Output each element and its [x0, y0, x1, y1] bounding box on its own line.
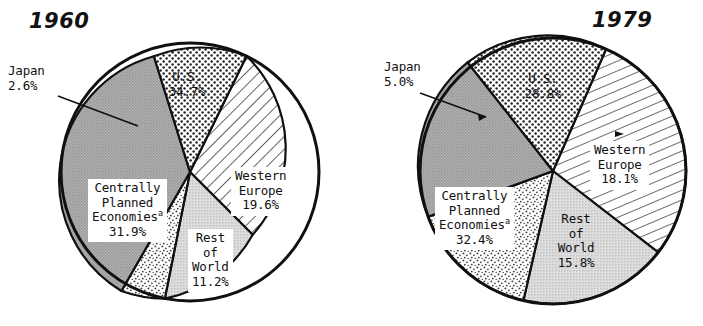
centrally-planned-value-1979: 32.4%	[439, 233, 510, 248]
japan-label-1979: Japan	[384, 60, 421, 75]
rest-of-world-label-line2-1979: of	[546, 227, 606, 242]
rest-of-world-label-line1-1979: Rest	[546, 212, 606, 227]
callout-japan-1979[interactable]: Japan 5.0%	[384, 60, 421, 89]
centrally-planned-economies-word-1979: Economies	[439, 217, 505, 232]
callout-japan-1960[interactable]: Japan 2.6%	[8, 64, 45, 93]
label-centrally-planned-1960[interactable]: Centrally Planned Economiesa 31.9%	[88, 179, 167, 242]
japan-value-1979: 5.0%	[384, 75, 421, 90]
centrally-planned-label-line3-1979: Economiesa	[439, 218, 510, 233]
footnote-marker-a-1979: a	[505, 216, 510, 226]
us-value-1979: 28.8%	[506, 87, 580, 102]
centrally-planned-label-line1-1960: Centrally	[92, 181, 163, 196]
label-centrally-planned-1979[interactable]: Centrally Planned Economiesa 32.4%	[435, 187, 514, 250]
japan-label-1960: Japan	[8, 64, 45, 79]
western-europe-label-line1-1960: Western	[235, 169, 286, 184]
chart-title-1960: 1960	[29, 9, 89, 33]
us-label-1979: U.S.	[506, 72, 580, 87]
western-europe-value-1960: 19.6%	[235, 198, 286, 213]
centrally-planned-economies-word-1960: Economies	[92, 209, 158, 224]
western-europe-label-line1-1979: Western	[594, 143, 645, 158]
label-us-1979[interactable]: U.S. 28.8%	[506, 72, 580, 101]
rest-of-world-label-line1-1960: Rest	[192, 231, 229, 246]
centrally-planned-label-line3-1960: Economiesa	[92, 210, 163, 225]
western-europe-label-line2-1979: Europe	[594, 158, 645, 173]
rest-of-world-label-line3-1960: World	[192, 260, 229, 275]
rest-of-world-label-line2-1960: of	[192, 246, 229, 261]
label-western-europe-1979[interactable]: Western Europe 18.1%	[590, 141, 649, 190]
label-us-1960[interactable]: U.S. 34.7%	[150, 70, 224, 99]
footnote-marker-a-1960: a	[158, 208, 163, 218]
panel-1960: 1960 Japan 2.6% U.S. 34.7% Western Europ…	[0, 0, 351, 326]
centrally-planned-label-line2-1979: Planned	[439, 204, 510, 219]
centrally-planned-label-line2-1960: Planned	[92, 196, 163, 211]
label-western-europe-1960[interactable]: Western Europe 19.6%	[231, 167, 290, 216]
centrally-planned-value-1960: 31.9%	[92, 225, 163, 240]
chart-title-1979: 1979	[592, 8, 652, 32]
rest-of-world-value-1960: 11.2%	[192, 275, 229, 290]
western-europe-value-1979: 18.1%	[594, 172, 645, 187]
western-europe-label-line2-1960: Europe	[235, 184, 286, 199]
centrally-planned-label-line1-1979: Centrally	[439, 189, 510, 204]
panel-1979: 1979 Japan 5.0% U.S. 28.8% Western Europ…	[351, 0, 702, 326]
rest-of-world-value-1979: 15.8%	[546, 256, 606, 271]
us-value-1960: 34.7%	[150, 85, 224, 100]
pie-chart-figure: 1960 Japan 2.6% U.S. 34.7% Western Europ…	[0, 0, 703, 326]
label-rest-of-world-1979[interactable]: Rest of World 15.8%	[546, 212, 606, 270]
rest-of-world-label-line3-1979: World	[546, 241, 606, 256]
japan-value-1960: 2.6%	[8, 79, 45, 94]
label-rest-of-world-1960[interactable]: Rest of World 11.2%	[188, 229, 233, 292]
us-label-1960: U.S.	[150, 70, 224, 85]
